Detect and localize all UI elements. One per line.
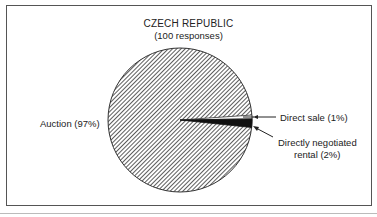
arrow-rental-head <box>253 126 259 131</box>
label-auction: Auction (97%) <box>40 118 100 129</box>
label-rental-line2: rental (2%) <box>294 149 340 160</box>
label-rental-line1: Directly negotiated <box>278 137 357 148</box>
pie-chart <box>0 0 377 217</box>
arrow-direct-sale-head <box>253 115 258 119</box>
arrow-rental <box>256 128 273 137</box>
label-direct-sale: Direct sale (1%) <box>280 112 348 123</box>
